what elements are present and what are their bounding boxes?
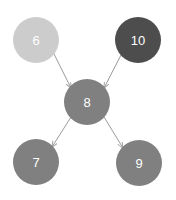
graph-node-7[interactable]: 7 (13, 139, 59, 185)
graph-node-label-6: 6 (32, 33, 39, 48)
graph-node-label-9: 9 (135, 156, 142, 171)
graph-node-label-7: 7 (32, 155, 39, 170)
graph-edge-8-to-9 (104, 117, 123, 148)
graph-node-6[interactable]: 6 (13, 17, 59, 63)
graph-edge-8-to-7 (52, 117, 71, 147)
graph-node-9[interactable]: 9 (116, 140, 162, 186)
nodes-layer: 610879 (13, 17, 162, 186)
graph-node-8[interactable]: 8 (64, 79, 110, 125)
graph-node-label-10: 10 (131, 33, 145, 48)
graph-svg: 610879 (0, 0, 176, 200)
graph-edge-6-to-8 (54, 54, 71, 88)
graph-node-10[interactable]: 10 (115, 17, 161, 63)
graph-canvas: 610879 (0, 0, 176, 200)
graph-edge-10-to-8 (104, 55, 121, 88)
graph-node-label-8: 8 (83, 95, 90, 110)
